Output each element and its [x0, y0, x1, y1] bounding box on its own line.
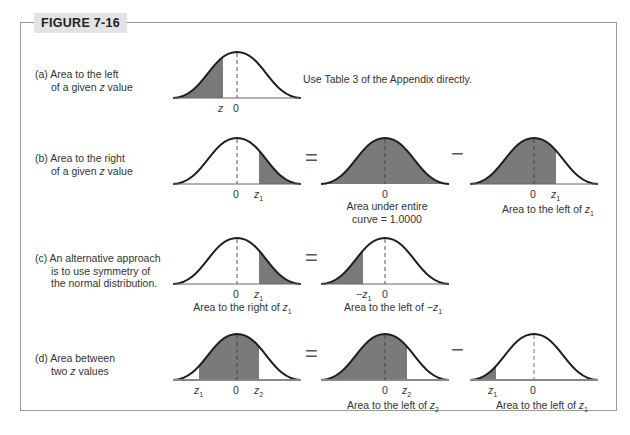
row-a-note: Use Table 3 of the Appendix directly. [303, 73, 472, 85]
row-c-middle-curve [321, 234, 449, 286]
tick-z1: z1 [254, 188, 263, 202]
row-c-middle-caption: Area to the left of −z1 [328, 301, 458, 318]
tick-zero: 0 [382, 384, 388, 396]
tick-z1: z1 [551, 188, 560, 202]
tick-zero: 0 [530, 384, 536, 396]
minus-sign: − [451, 141, 464, 167]
tick-z1: z1 [254, 288, 263, 302]
tick-z2: z2 [254, 384, 263, 398]
tick-zero: 0 [233, 384, 239, 396]
tick-z1: z1 [194, 384, 203, 398]
tick-zero: 0 [382, 288, 388, 300]
equals-sign: = [305, 341, 318, 367]
row-b-left-curve [173, 134, 301, 186]
figure-label: FIGURE 7-16 [34, 13, 127, 33]
row-d-middle-caption: Area to the left of z2 [328, 399, 458, 416]
minus-sign: − [451, 337, 464, 363]
row-d-right-caption: Area to the left of z1 [482, 399, 602, 416]
tick-zero: 0 [382, 188, 388, 200]
row-b-right-curve [470, 134, 598, 186]
equals-sign: = [305, 145, 318, 171]
row-c-left-caption: Area to the right of z1 [180, 301, 305, 318]
row-b-right-caption: Area to the left of z1 [488, 203, 608, 220]
row-c-description: (c) An alternative approach is to use sy… [35, 252, 161, 290]
row-a-curve [173, 48, 301, 100]
row-b-middle-curve [321, 134, 449, 186]
row-d-right-curve [470, 330, 598, 382]
tick-zero: 0 [233, 288, 239, 300]
row-d-left-curve [173, 330, 301, 382]
tick-z2: z2 [402, 384, 411, 398]
tick-neg-z1: −z1 [356, 288, 371, 302]
tick-zero: 0 [233, 102, 239, 114]
tick-zero: 0 [530, 188, 536, 200]
equals-sign: = [305, 245, 318, 271]
tick-z1: z1 [488, 384, 497, 398]
tick-zero: 0 [233, 188, 239, 200]
row-d-description: (d) Area between two z values [35, 352, 115, 377]
row-b-description: (b) Area to the right of a given z value [35, 152, 133, 177]
row-c-left-curve [173, 234, 301, 286]
row-d-middle-curve [321, 330, 449, 382]
row-b-middle-caption: Area under entire curve = 1.0000 [332, 200, 442, 226]
tick-z: z [218, 102, 223, 114]
row-a-description: (a) Area to the left of a given z value [35, 68, 133, 93]
